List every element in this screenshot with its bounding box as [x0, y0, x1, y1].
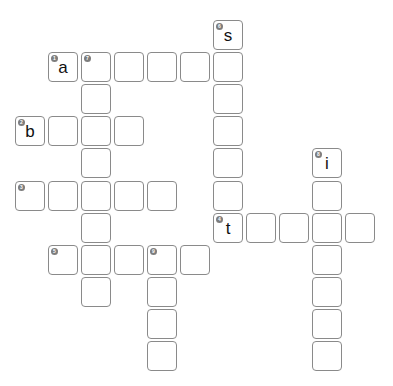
- crossword-cell-r6-c6[interactable]: 4 t: [213, 213, 243, 243]
- clue-number-badge: 3: [18, 184, 25, 191]
- clue-number-badge: 7: [84, 55, 91, 62]
- crossword-cell-r1-c4[interactable]: [147, 52, 177, 82]
- crossword-cell-r8-c9[interactable]: [312, 277, 342, 307]
- crossword-cell-r1-c5[interactable]: [180, 52, 210, 82]
- clue-number-badge: 9: [150, 248, 157, 255]
- crossword-cell-r8-c4[interactable]: [147, 277, 177, 307]
- cell-letter: s: [214, 26, 242, 46]
- cell-letter: i: [313, 154, 341, 174]
- crossword-cell-r7-c2[interactable]: [81, 245, 111, 275]
- crossword-cell-r3-c0[interactable]: 2 b: [15, 116, 45, 146]
- crossword-cell-r10-c9[interactable]: [312, 341, 342, 371]
- crossword-cell-r4-c6[interactable]: [213, 148, 243, 178]
- crossword-cell-r5-c0[interactable]: 3: [15, 181, 45, 211]
- crossword-cell-r2-c6[interactable]: [213, 84, 243, 114]
- clue-number-badge: 5: [51, 248, 58, 255]
- crossword-cell-r1-c2[interactable]: 7: [81, 52, 111, 82]
- crossword-cell-r6-c7[interactable]: [246, 213, 276, 243]
- crossword-cell-r5-c9[interactable]: [312, 181, 342, 211]
- crossword-cell-r0-c6[interactable]: 6 s: [213, 20, 243, 50]
- crossword-cell-r5-c3[interactable]: [114, 181, 144, 211]
- crossword-cell-r4-c9[interactable]: 8 i: [312, 148, 342, 178]
- crossword-cell-r6-c8[interactable]: [279, 213, 309, 243]
- crossword-cell-r7-c1[interactable]: 5: [48, 245, 78, 275]
- crossword-cell-r5-c4[interactable]: [147, 181, 177, 211]
- crossword-cell-r1-c3[interactable]: [114, 52, 144, 82]
- crossword-cell-r3-c3[interactable]: [114, 116, 144, 146]
- crossword-cell-r8-c2[interactable]: [81, 277, 111, 307]
- crossword-cell-r10-c4[interactable]: [147, 341, 177, 371]
- cell-letter: t: [214, 219, 242, 239]
- crossword-cell-r5-c1[interactable]: [48, 181, 78, 211]
- crossword-cell-r7-c5[interactable]: [180, 245, 210, 275]
- crossword-cell-r9-c4[interactable]: [147, 309, 177, 339]
- crossword-cell-r7-c9[interactable]: [312, 245, 342, 275]
- crossword-cell-r6-c9[interactable]: [312, 213, 342, 243]
- crossword-cell-r3-c1[interactable]: [48, 116, 78, 146]
- crossword-cell-r2-c2[interactable]: [81, 84, 111, 114]
- crossword-cell-r6-c10[interactable]: [345, 213, 375, 243]
- cell-letter: a: [49, 58, 77, 78]
- crossword-cell-r6-c2[interactable]: [81, 213, 111, 243]
- crossword-cell-r5-c2[interactable]: [81, 181, 111, 211]
- crossword-cell-r9-c9[interactable]: [312, 309, 342, 339]
- crossword-cell-r3-c6[interactable]: [213, 116, 243, 146]
- crossword-cell-r7-c4[interactable]: 9: [147, 245, 177, 275]
- crossword-cell-r1-c6[interactable]: [213, 52, 243, 82]
- crossword-cell-r5-c6[interactable]: [213, 181, 243, 211]
- crossword-cell-r7-c3[interactable]: [114, 245, 144, 275]
- crossword-cell-r4-c2[interactable]: [81, 148, 111, 178]
- crossword-cell-r3-c2[interactable]: [81, 116, 111, 146]
- crossword-board: 6 s 1 a 7 2 b: [0, 0, 393, 386]
- crossword-cell-r1-c1[interactable]: 1 a: [48, 52, 78, 82]
- cell-letter: b: [16, 122, 44, 142]
